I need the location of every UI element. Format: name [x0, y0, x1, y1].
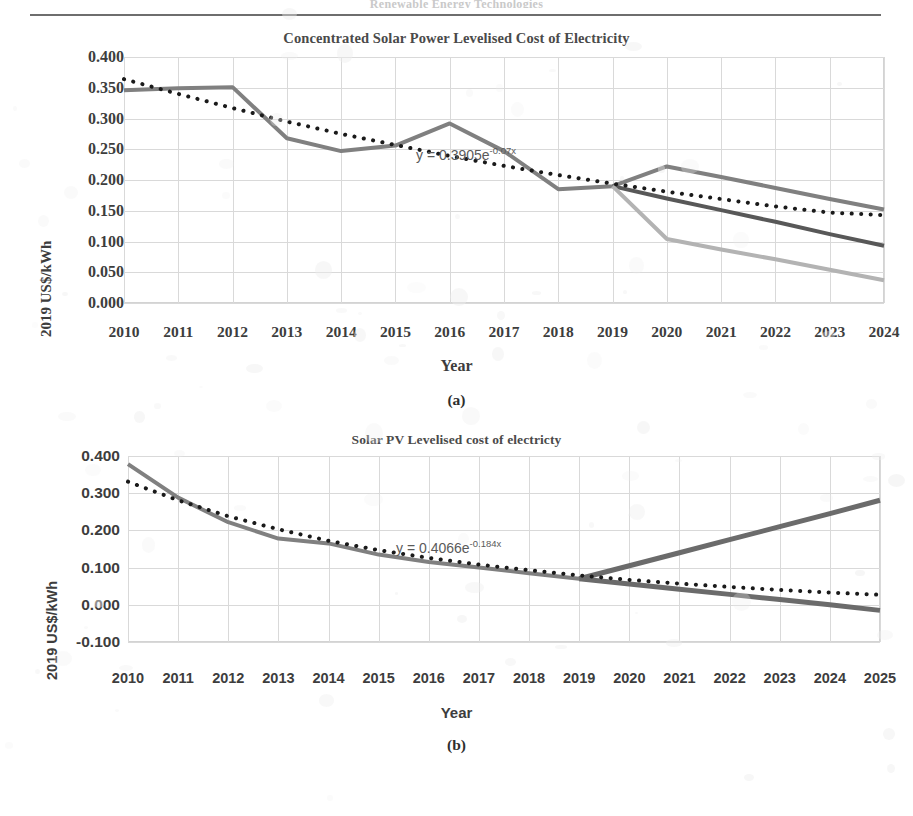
scan-speckle [458, 533, 469, 545]
scan-speckle [743, 392, 757, 398]
y-tick-label: 0.100 [42, 559, 120, 577]
x-tick-label: 2018 [513, 670, 545, 686]
scan-speckle [666, 639, 681, 646]
y-tick-label: 0.000 [42, 596, 120, 614]
y-tick-label: 0.350 [46, 79, 124, 97]
scan-speckle [837, 82, 841, 86]
scan-speckle [455, 214, 459, 219]
y-tick-label: 0.200 [42, 521, 120, 539]
chart-series-layer [128, 456, 880, 642]
chart-b-x-tick-labels: 2010201120122013201420152016201720182019… [128, 670, 880, 696]
x-tick-label: 2023 [764, 670, 796, 686]
chart-a-x-tick-labels: 2010201120122013201420152016201720182019… [124, 323, 884, 349]
scan-speckle [497, 311, 505, 320]
scan-speckle [134, 411, 145, 422]
scan-speckle [84, 626, 88, 629]
scan-speckle [822, 331, 836, 338]
scan-speckle [820, 494, 834, 502]
x-tick-label: 2022 [760, 323, 791, 341]
page-header-band: Renewable Energy Technologies [0, 0, 913, 18]
chart-b-equation: y = 0.4066e-0.184x [396, 538, 501, 556]
scan-speckle [623, 290, 627, 294]
series-upper-projection [579, 500, 880, 578]
scan-speckle [872, 453, 886, 459]
scan-speckle [620, 176, 624, 181]
chart-b-x-axis-label: Year [0, 704, 913, 721]
y-tick-label: 0.100 [46, 233, 124, 251]
chart-a-equation: y = 0.3905e-0.07x [416, 145, 516, 163]
cut-off-header-text: Renewable Energy Technologies [0, 0, 913, 8]
x-tick-label: 2013 [262, 670, 294, 686]
x-tick-label: 2025 [864, 670, 896, 686]
x-tick-label: 2020 [613, 670, 645, 686]
scan-speckle [637, 421, 650, 434]
x-tick-label: 2015 [380, 323, 411, 341]
scan-speckle [466, 89, 473, 97]
x-tick-label: 2015 [363, 670, 395, 686]
scan-speckle [450, 288, 468, 306]
chart-b-y-tick-labels: 0.4000.3000.2000.1000.000-0.100 [42, 448, 120, 653]
x-tick-label: 2024 [869, 323, 900, 341]
chart-a-x-axis-label: Year [0, 357, 913, 375]
y-tick-label: 0.400 [46, 48, 124, 66]
chart-b-equation-exponent: -0.184x [470, 538, 502, 549]
scan-speckle [384, 356, 399, 365]
gridline-horizontal [128, 642, 880, 643]
scan-speckle [281, 52, 298, 60]
scan-speckle [587, 352, 602, 369]
scan-speckle [855, 570, 864, 577]
scan-speckle [635, 612, 638, 614]
x-tick-label: 2021 [706, 323, 737, 341]
chart-a-y-tick-labels: 0.4000.3500.3000.2500.2000.1500.1000.050… [46, 47, 124, 307]
scan-speckle [549, 69, 556, 73]
series-historical-lcoe [128, 464, 579, 579]
scan-speckle [759, 345, 768, 349]
scan-speckle [32, 322, 38, 328]
series-exponential-trendline [128, 482, 880, 595]
x-tick-label: 2011 [163, 323, 193, 341]
scan-speckle [364, 493, 383, 506]
scan-speckle [658, 165, 665, 172]
x-tick-label: 2014 [312, 670, 344, 686]
x-tick-label: 2016 [434, 323, 465, 341]
chart-a-equation-exponent: -0.07x [490, 145, 516, 156]
chart-a-plot-area: 2019 US$/kWh 0.4000.3500.3000.2500.2000.… [0, 47, 913, 307]
scan-speckle [681, 159, 699, 174]
x-tick-label: 2010 [112, 670, 144, 686]
x-tick-label: 2021 [663, 670, 695, 686]
x-tick-label: 2016 [413, 670, 445, 686]
x-tick-label: 2012 [217, 323, 248, 341]
chart-b-title: Solar PV Levelised cost of electricty [0, 432, 913, 448]
chart-a-equation-prefix: y = 0.3905e [416, 147, 490, 163]
scan-speckle [593, 37, 597, 39]
chart-a-title: Concentrated Solar Power Levelised Cost … [0, 30, 913, 47]
scan-speckle [883, 728, 895, 740]
scan-speckle [282, 8, 297, 20]
chart-series-layer [124, 57, 884, 303]
x-tick-label: 2018 [543, 323, 574, 341]
scan-speckle [877, 630, 893, 640]
x-tick-label: 2013 [271, 323, 302, 341]
y-tick-label: 0.050 [46, 263, 124, 281]
x-tick-label: 2017 [489, 323, 520, 341]
x-tick-label: 2014 [326, 323, 357, 341]
header-rule [30, 14, 881, 16]
scan-speckle [270, 113, 282, 126]
figure-a-caption: (a) [0, 391, 913, 409]
gridline-vertical [884, 57, 885, 303]
scan-speckle [234, 505, 246, 511]
scan-speckle [395, 592, 399, 594]
y-tick-label: 0.300 [46, 110, 124, 128]
y-tick-label: 0.000 [46, 294, 124, 312]
scan-speckle [94, 600, 104, 608]
x-tick-label: 2020 [651, 323, 682, 341]
figure-b: Solar PV Levelised cost of electricty 20… [0, 432, 913, 812]
y-tick-label: 0.300 [42, 484, 120, 502]
gridline-horizontal [124, 303, 884, 304]
scan-speckle [119, 665, 133, 671]
chart-b-plot-box [128, 456, 880, 642]
scan-speckle [629, 504, 645, 520]
scan-speckle [142, 537, 155, 552]
scan-speckle [505, 658, 515, 666]
y-tick-label: -0.100 [42, 633, 120, 651]
